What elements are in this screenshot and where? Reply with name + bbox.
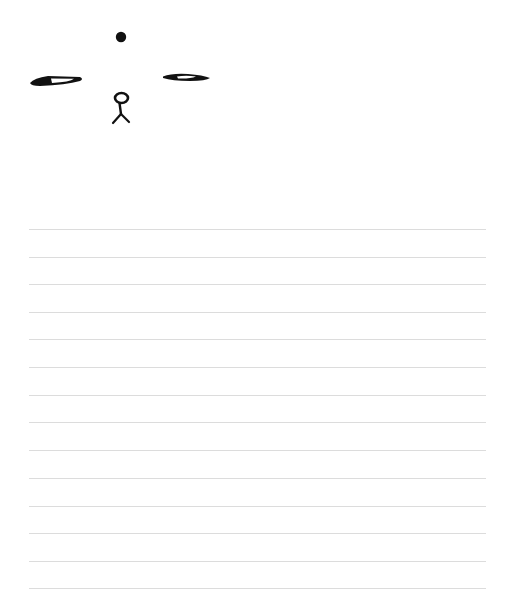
ruled-line bbox=[29, 339, 486, 340]
ruled-line bbox=[29, 257, 486, 258]
ruled-line bbox=[29, 561, 486, 562]
ruled-line bbox=[29, 478, 486, 479]
ruled-line bbox=[29, 533, 486, 534]
ruled-line bbox=[29, 229, 486, 230]
ruled-line bbox=[29, 395, 486, 396]
ruled-line bbox=[29, 588, 486, 589]
ruled-line bbox=[29, 367, 486, 368]
ruled-lines bbox=[29, 0, 486, 614]
ruled-line bbox=[29, 450, 486, 451]
ruled-line bbox=[29, 506, 486, 507]
ruled-line bbox=[29, 422, 486, 423]
ruled-line bbox=[29, 312, 486, 313]
ruled-line bbox=[29, 284, 486, 285]
